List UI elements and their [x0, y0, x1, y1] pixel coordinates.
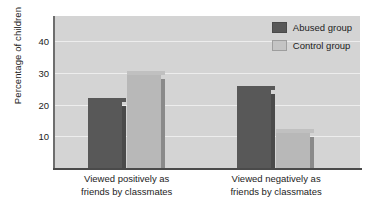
- bar-control-group-group-1: [276, 133, 310, 168]
- x-category-label-1-line2: friends by classmates: [201, 186, 351, 199]
- bar-front-face: [88, 102, 122, 169]
- x-category-label-0-line1: Viewed positively as: [52, 173, 202, 186]
- bar-chart-figure: Percentage of children 40 30 20 10 Abuse…: [0, 0, 378, 206]
- legend-swatch-icon-control-group: [272, 40, 287, 51]
- y-axis-tick-labels: 40 30 20 10: [0, 0, 49, 206]
- x-category-label-0: Viewed positively as friends by classmat…: [52, 173, 202, 198]
- bar-side-face: [310, 137, 314, 168]
- bar-control-group-group-0: [127, 75, 161, 168]
- y-tick-20: 20: [3, 99, 49, 110]
- legend-swatch-icon-abused-group: [272, 22, 287, 33]
- legend-label-control-group: Control group: [293, 40, 351, 51]
- legend: Abused group Control group: [272, 22, 352, 51]
- bar-side-face: [271, 94, 275, 168]
- bar-abused-group-group-0: [88, 102, 122, 169]
- legend-item-control-group: Control group: [272, 40, 352, 51]
- x-axis-line: [53, 168, 362, 170]
- y-axis-line: [53, 16, 55, 170]
- bar-abused-group-group-1: [237, 90, 271, 168]
- plot-area: Abused group Control group: [55, 16, 360, 168]
- legend-item-abused-group: Abused group: [272, 22, 352, 33]
- bar-side-face: [161, 79, 165, 168]
- y-tick-40: 40: [3, 36, 49, 47]
- bar-front-face: [276, 133, 310, 168]
- legend-label-abused-group: Abused group: [293, 22, 352, 33]
- y-tick-10: 10: [3, 131, 49, 142]
- bar-front-face: [127, 75, 161, 168]
- x-axis-category-labels: Viewed positively as friends by classmat…: [55, 173, 360, 205]
- bar-front-face: [237, 90, 271, 168]
- y-tick-30: 30: [3, 68, 49, 79]
- bar-side-face: [122, 106, 126, 169]
- x-category-label-1-line1: Viewed negatively as: [201, 173, 351, 186]
- x-category-label-0-line2: friends by classmates: [52, 186, 202, 199]
- gridline-30: [55, 73, 360, 74]
- x-category-label-1: Viewed negatively as friends by classmat…: [201, 173, 351, 198]
